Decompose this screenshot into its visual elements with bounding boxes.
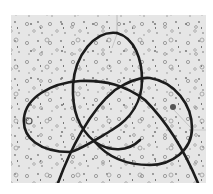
knot-illustration [11, 15, 206, 183]
knot-photo [11, 15, 206, 183]
